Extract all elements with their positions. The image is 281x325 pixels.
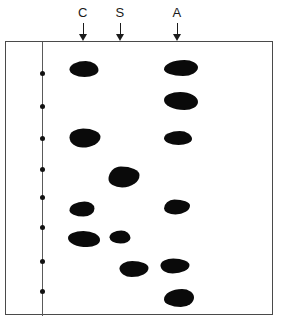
chromatography-spot-c: [70, 202, 95, 217]
marker-dot: [40, 104, 45, 109]
origin-marker-line: [42, 42, 43, 316]
chromatography-spot-c: [70, 61, 99, 77]
chromatography-spot-s: [109, 167, 140, 188]
plate-frame: [5, 41, 273, 315]
chromatography-spot-a: [164, 60, 198, 76]
tlc-plate-figure: CSA: [0, 0, 281, 325]
lane-label: S: [106, 6, 134, 19]
marker-dot: [40, 195, 45, 200]
lane-header-a: A: [163, 6, 191, 43]
chromatography-spot-a: [164, 92, 198, 110]
down-arrow-icon: [69, 23, 97, 43]
marker-dot: [40, 225, 45, 230]
marker-dot: [40, 167, 45, 172]
chromatography-spot-c: [70, 129, 101, 148]
chromatography-spot-a: [164, 200, 190, 215]
chromatography-spot-a: [161, 259, 190, 274]
chromatography-spot-s: [120, 261, 149, 277]
lane-header-s: S: [106, 6, 134, 43]
chromatography-spot-a: [164, 289, 194, 307]
lane-label: A: [163, 6, 191, 19]
down-arrow-icon: [106, 23, 134, 43]
marker-dot: [40, 136, 45, 141]
down-arrow-icon: [163, 23, 191, 43]
marker-dot: [40, 71, 45, 76]
chromatography-spot-a: [164, 131, 192, 145]
chromatography-spot-c: [68, 231, 100, 247]
lane-label: C: [69, 6, 97, 19]
marker-dot: [40, 289, 45, 294]
chromatography-spot-s: [110, 231, 131, 244]
marker-dot: [40, 259, 45, 264]
lane-header-c: C: [69, 6, 97, 43]
